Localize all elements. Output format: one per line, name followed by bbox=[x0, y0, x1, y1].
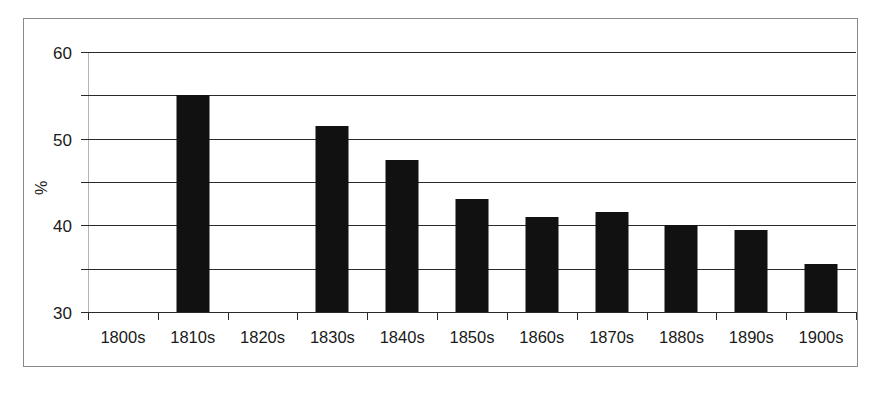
y-axis-tick-0: 0 bbox=[81, 312, 88, 313]
x-axis-label-1870s: 1870s bbox=[577, 327, 647, 347]
x-axis-label-1890s: 1890s bbox=[716, 327, 786, 347]
bar[interactable] bbox=[386, 160, 419, 312]
bar-slot bbox=[577, 52, 647, 312]
y-axis-tick-label: 50 bbox=[53, 131, 72, 148]
bar-chart-figure: % 6050403020100 1800s1810s1820s1830s1840… bbox=[0, 0, 879, 393]
y-axis-title-text: % bbox=[33, 181, 51, 195]
x-axis-label-1810s: 1810s bbox=[158, 327, 228, 347]
x-axis-tick bbox=[228, 312, 229, 320]
x-axis-tick bbox=[856, 312, 857, 320]
bar[interactable] bbox=[665, 225, 698, 312]
bar-slot bbox=[716, 52, 786, 312]
bar[interactable] bbox=[455, 199, 488, 312]
gridline-0 bbox=[88, 312, 856, 313]
x-axis-label-1850s: 1850s bbox=[437, 327, 507, 347]
y-axis-tick-label: 60 bbox=[53, 45, 72, 62]
x-axis-label-1900s: 1900s bbox=[786, 327, 856, 347]
x-axis-labels-group: 1800s1810s1820s1830s1840s1850s1860s1870s… bbox=[88, 327, 856, 353]
bar[interactable] bbox=[595, 212, 628, 312]
bar[interactable] bbox=[176, 95, 209, 312]
x-axis-tick bbox=[158, 312, 159, 320]
bar-slot bbox=[228, 52, 298, 312]
y-axis-tick-60: 60 bbox=[81, 52, 88, 53]
x-axis-tick bbox=[786, 312, 787, 320]
bar[interactable] bbox=[805, 264, 838, 312]
y-axis-title: % bbox=[22, 158, 62, 218]
x-axis-tick bbox=[367, 312, 368, 320]
x-axis-tick bbox=[716, 312, 717, 320]
bar-slot bbox=[647, 52, 717, 312]
x-axis-label-1880s: 1880s bbox=[647, 327, 717, 347]
bar[interactable] bbox=[525, 217, 558, 312]
x-axis-label-1860s: 1860s bbox=[507, 327, 577, 347]
x-axis-tick bbox=[507, 312, 508, 320]
bar-slot bbox=[367, 52, 437, 312]
x-axis-label-1800s: 1800s bbox=[88, 327, 158, 347]
x-axis-tick bbox=[297, 312, 298, 320]
x-axis-tick bbox=[88, 312, 89, 320]
bar-slot bbox=[88, 52, 158, 312]
y-axis-tick-label: 30 bbox=[53, 305, 72, 322]
y-axis-tick-30: 30 bbox=[81, 182, 88, 183]
bar-slot bbox=[158, 52, 228, 312]
x-axis-label-1820s: 1820s bbox=[228, 327, 298, 347]
bar-slot bbox=[507, 52, 577, 312]
x-axis-tick bbox=[647, 312, 648, 320]
bar-slot bbox=[437, 52, 507, 312]
x-axis-tick bbox=[577, 312, 578, 320]
x-axis-label-1830s: 1830s bbox=[297, 327, 367, 347]
y-axis-tick-50: 50 bbox=[81, 95, 88, 96]
plot-area: 6050403020100 bbox=[88, 52, 856, 312]
y-axis-tick-20: 20 bbox=[81, 225, 88, 226]
y-axis-tick-40: 40 bbox=[81, 139, 88, 140]
bar[interactable] bbox=[316, 126, 349, 312]
y-axis-tick-label: 40 bbox=[53, 218, 72, 235]
y-axis-tick-10: 10 bbox=[81, 269, 88, 270]
bar-slot bbox=[297, 52, 367, 312]
bar-slot bbox=[786, 52, 856, 312]
bar[interactable] bbox=[735, 230, 768, 312]
x-axis-tick bbox=[437, 312, 438, 320]
x-axis-label-1840s: 1840s bbox=[367, 327, 437, 347]
bars-group bbox=[88, 52, 856, 312]
